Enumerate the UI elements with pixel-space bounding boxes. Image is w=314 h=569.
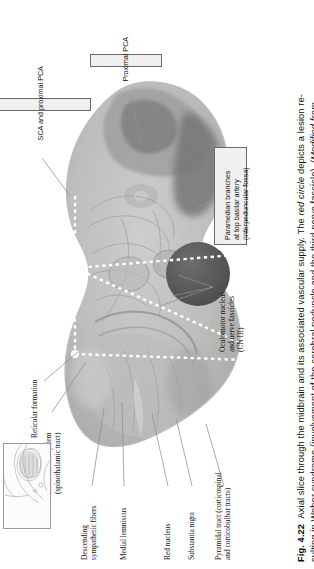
structure-label-oculomotor-line1: Oculomotor nucleus	[218, 292, 227, 352]
caption-figure-number: Fig. 4.22	[296, 524, 306, 562]
label-text-paramedian-line3: (interpeduncular fossa)	[242, 167, 251, 240]
caption-line-1-text-b: depicts a lesion re-	[296, 94, 306, 177]
figure-page: SCA and proximal PCA Proximal PCA Parame…	[0, 0, 314, 569]
label-text-sca-proximal-pca: SCA and proximal PCA	[37, 54, 45, 152]
label-box-paramedian-branches: Paramedian branches at top basilar arter…	[214, 147, 247, 245]
figure-caption: Fig. 4.22 Axial slice through the midbra…	[284, 0, 314, 569]
caption-italic-red-circle: red circle	[296, 177, 306, 216]
structure-label-substantia-nigra: Substantia nigra	[187, 512, 196, 560]
caption-italic-modified-from: (Modified from	[309, 102, 314, 163]
structure-label-reticular-formation: Reticular formation	[30, 380, 39, 438]
label-box-proximal-pca: Proximal PCA	[90, 54, 162, 67]
structure-label-anterolateral-system-line2: (spinothalamic tract)	[53, 433, 62, 494]
midbrain-axial-slice-image	[57, 78, 247, 473]
structure-label-pyramidal-tract-line1: Pyramidal tract (corticospinal	[214, 472, 223, 560]
structure-label-descending-sympathetic-line2: sympathetic fibers	[89, 506, 98, 560]
structure-label-oculomotor-line2: and nerve fascicles	[227, 296, 236, 352]
structure-label-pyramidal-tract-line2: and corticobulbar tracts)	[223, 488, 232, 560]
figure-body: SCA and proximal PCA Proximal PCA Parame…	[0, 0, 284, 569]
caption-line-1-text-a: Axial slice through the midbrain and its…	[296, 215, 306, 521]
structure-label-medial-lemniscus: Medial lemniscus	[119, 508, 128, 560]
structure-label-red-nucleus: Red nucleus	[163, 524, 172, 560]
label-box-sca-proximal-pca: SCA and proximal PCA	[0, 98, 91, 111]
structure-label-descending-sympathetic-line1: Descending	[80, 525, 89, 560]
structure-label-oculomotor-line3: (CN III)	[236, 328, 245, 352]
inset-orientation-thumbnail	[3, 443, 51, 529]
caption-line-2-text: sulting in Weber syndrome (involvement o…	[309, 163, 314, 562]
label-text-paramedian-line2: at top basilar artery	[233, 179, 242, 240]
label-text-paramedian-line1: Paramedian branches	[224, 171, 233, 240]
label-text-proximal-pca: Proximal PCA	[122, 24, 130, 94]
caption-line-1: Fig. 4.22 Axial slice through the midbra…	[296, 94, 306, 562]
caption-line-2: sulting in Weber syndrome (involvement o…	[309, 102, 314, 562]
